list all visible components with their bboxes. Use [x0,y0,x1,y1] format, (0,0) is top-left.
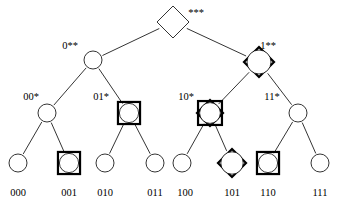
tree-node-010[interactable] [96,154,114,172]
node-circle-icon [96,154,114,172]
leaf-label-010: 010 [97,188,113,199]
tree-edge-root-1xx [187,28,246,56]
tree-node-111[interactable] [311,154,329,172]
tree-node-110[interactable] [257,152,279,174]
tree-node-011[interactable] [146,154,164,172]
tree-node-101[interactable] [218,149,246,177]
node-circle-icon [200,103,221,124]
node-circle-icon [221,152,243,174]
tree-edge-1xx-10x [219,72,250,104]
tree-edge-10x-101 [215,124,227,151]
leaf-label-101: 101 [224,188,240,199]
tree-edge-00x-000 [23,122,42,154]
leaf-label-000: 000 [10,188,26,199]
tree-edge-01x-011 [134,123,150,154]
node-label-10x: 10* [178,92,194,103]
tree-node-001[interactable] [58,152,80,174]
node-circle-icon [258,153,277,172]
node-circle-icon [247,50,271,74]
tree-edge-00x-001 [51,123,64,153]
tree-edge-0xx-00x [54,68,86,105]
node-circle-icon [289,104,307,122]
node-diamond-icon [157,6,189,38]
tree-edge-10x-100 [187,124,204,154]
node-label-0xx: 0** [62,41,78,52]
node-label-11x: 11* [264,92,279,103]
node-circle-icon [146,154,164,172]
leaf-label-111: 111 [313,188,328,199]
node-layer [9,6,329,177]
node-circle-icon [173,154,191,172]
tree-node-00x[interactable] [38,104,56,122]
node-circle-icon [59,153,78,172]
binary-tree-figure: ***0**1**00*01*10*11*0000010100111001011… [0,0,343,205]
node-label-01x: 01* [93,92,109,103]
node-circle-icon [84,51,102,69]
leaf-label-100: 100 [177,188,193,199]
tree-node-100[interactable] [173,154,191,172]
leaf-label-110: 110 [260,188,275,199]
tree-node-01x[interactable] [118,102,140,124]
leaf-label-001: 001 [61,188,77,199]
tree-edge-11x-111 [302,123,316,154]
tree-edge-root-0xx [102,29,159,56]
tree-edge-11x-110 [274,122,293,153]
node-circle-icon [38,104,56,122]
tree-node-root[interactable] [157,6,189,38]
tree-node-0xx[interactable] [84,51,102,69]
node-circle-icon [9,154,27,172]
tree-edge-01x-010 [110,123,125,153]
leaf-label-011: 011 [147,188,162,199]
node-label-root: *** [188,8,204,19]
node-circle-icon [119,103,138,122]
node-label-1xx: 1** [260,41,276,52]
node-label-00x: 00* [23,92,39,103]
tree-node-000[interactable] [9,154,27,172]
tree-node-11x[interactable] [289,104,307,122]
node-circle-icon [311,154,329,172]
tree-canvas [0,0,343,205]
